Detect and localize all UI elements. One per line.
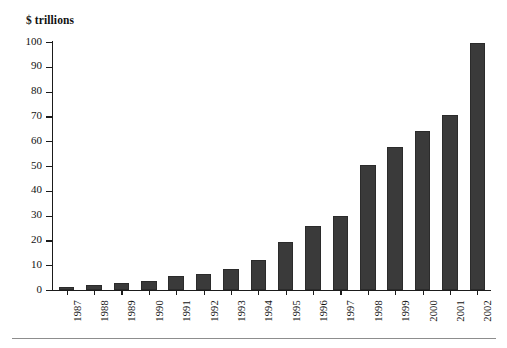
- bar: [114, 283, 130, 290]
- x-axis-tick: [231, 291, 232, 295]
- x-axis-tick-label: 1999: [400, 300, 411, 322]
- y-axis-tick: 70: [46, 116, 53, 117]
- bar: [251, 260, 267, 290]
- y-axis-tick: 20: [46, 240, 53, 241]
- y-axis-tick: 60: [46, 141, 53, 142]
- y-axis-tick-label: 10: [31, 258, 42, 270]
- x-axis-tick: [313, 291, 314, 295]
- x-axis-tick: [149, 291, 150, 295]
- x-axis-tick: [395, 291, 396, 295]
- x-axis-tick-label: 1998: [373, 300, 384, 322]
- y-axis-tick-label: 30: [31, 208, 42, 220]
- y-axis-tick-label: 80: [31, 84, 42, 96]
- plot-area: 0102030405060708090100: [53, 42, 491, 290]
- bar: [333, 216, 349, 290]
- bar: [442, 115, 458, 290]
- x-axis-tick: [340, 291, 341, 295]
- chart-title: $ trillions: [26, 14, 74, 26]
- y-axis-tick-label: 50: [31, 159, 42, 171]
- y-axis-tick: 0: [46, 290, 53, 291]
- x-axis-tick: [423, 291, 424, 295]
- x-axis-tick: [368, 291, 369, 295]
- y-axis-tick: 90: [46, 67, 53, 68]
- x-axis-tick-label: 1992: [209, 300, 220, 322]
- bar: [360, 165, 376, 290]
- y-axis-tick-label: 60: [31, 134, 42, 146]
- x-axis-tick: [121, 291, 122, 295]
- x-axis-tick-label: 1989: [126, 300, 137, 322]
- y-axis-tick: 30: [46, 216, 53, 217]
- x-axis-tick-label: 2000: [428, 300, 439, 322]
- x-axis-tick-label: 2001: [455, 300, 466, 322]
- bar: [168, 276, 184, 290]
- bar: [223, 269, 239, 290]
- y-axis-tick-label: 0: [37, 283, 43, 295]
- x-axis-line: [52, 290, 491, 291]
- x-axis-tick-label: 1996: [318, 300, 329, 322]
- x-axis-tick-label: 1993: [236, 300, 247, 322]
- y-axis-tick-label: 40: [31, 183, 42, 195]
- bottom-rule: [12, 338, 496, 339]
- x-axis-tick-label: 1994: [263, 300, 274, 322]
- x-axis-tick-label: 1987: [72, 300, 83, 322]
- y-axis-tick-label: 20: [31, 233, 42, 245]
- x-axis-tick: [67, 291, 68, 295]
- x-axis-tick-label: 1988: [99, 300, 110, 322]
- x-axis-tick: [94, 291, 95, 295]
- x-axis-tick-label: 1991: [181, 300, 192, 322]
- bar-chart: $ trillions 0102030405060708090100 19871…: [0, 0, 507, 348]
- x-axis-tick: [286, 291, 287, 295]
- bar: [86, 285, 102, 290]
- y-axis-tick: 40: [46, 191, 53, 192]
- bar: [305, 226, 321, 290]
- x-axis-tick: [176, 291, 177, 295]
- y-axis-tick-label: 70: [31, 109, 42, 121]
- x-axis-tick: [477, 291, 478, 295]
- x-axis-tick: [450, 291, 451, 295]
- bar: [415, 131, 431, 290]
- bar: [470, 43, 486, 290]
- y-axis-tick: 80: [46, 92, 53, 93]
- x-axis-tick: [204, 291, 205, 295]
- bar: [59, 287, 75, 290]
- y-axis-tick: 100: [46, 42, 53, 43]
- bar: [387, 147, 403, 290]
- x-axis-tick: [258, 291, 259, 295]
- y-axis-tick: 50: [46, 166, 53, 167]
- x-axis-tick-label: 1990: [154, 300, 165, 322]
- bar: [196, 274, 212, 290]
- bar: [278, 242, 294, 290]
- x-axis-tick-label: 2002: [482, 300, 493, 322]
- x-axis-tick-label: 1995: [291, 300, 302, 322]
- bar: [141, 281, 157, 290]
- y-axis-tick: 10: [46, 265, 53, 266]
- x-axis-tick-label: 1997: [345, 300, 356, 322]
- y-axis-tick-label: 100: [26, 35, 43, 47]
- y-axis-tick-label: 90: [31, 59, 42, 71]
